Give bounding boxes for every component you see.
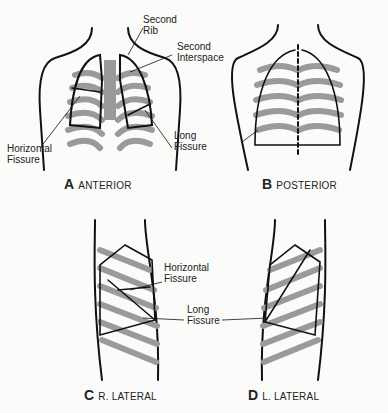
caption-d-letter: D — [248, 387, 258, 403]
panel-c-right-lateral — [95, 220, 159, 380]
label-horizontal-fissure-lateral: Horizontal Fissure — [164, 262, 209, 284]
panel-a-anterior — [40, 28, 181, 170]
caption-a-title: ANTERIOR — [78, 180, 131, 191]
caption-c: CR. LATERAL — [84, 387, 157, 403]
caption-a-letter: A — [64, 176, 74, 192]
panel-d-left-lateral — [262, 220, 326, 380]
label-second-rib: Second Rib — [143, 14, 177, 36]
panel-b-posterior — [232, 25, 364, 170]
caption-b-letter: B — [262, 176, 272, 192]
caption-d-title: L. LATERAL — [262, 391, 319, 402]
caption-b: BPOSTERIOR — [262, 176, 337, 192]
caption-b-title: POSTERIOR — [276, 180, 337, 191]
label-second-interspace: Second Interspace — [177, 41, 224, 63]
caption-c-letter: C — [84, 387, 94, 403]
caption-a: AANTERIOR — [64, 176, 132, 192]
label-long-fissure-lateral: Long Fissure — [187, 304, 220, 326]
label-long-fissure-anterior: Long Fissure — [174, 130, 207, 152]
caption-d: DL. LATERAL — [248, 387, 319, 403]
caption-c-title: R. LATERAL — [98, 391, 157, 402]
label-horizontal-fissure-anterior: Horizontal Fissure — [7, 143, 52, 165]
leader-lines — [40, 28, 268, 320]
